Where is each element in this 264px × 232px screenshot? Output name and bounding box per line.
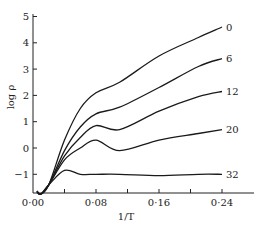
axes: −10123450·000·080·160·241/Tlog ρ <box>5 11 254 222</box>
curve-0 <box>37 27 222 194</box>
x-tick-label: 0·08 <box>85 197 107 208</box>
y-tick-label: 2 <box>23 90 29 101</box>
y-tick-label: 4 <box>23 37 29 48</box>
y-tick-label: 5 <box>23 11 29 22</box>
y-tick-label: 1 <box>23 116 29 127</box>
y-tick-label: 0 <box>23 143 29 154</box>
chart: −10123450·000·080·160·241/Tlog ρ 0612203… <box>0 0 264 232</box>
x-tick-label: 0·24 <box>211 197 233 208</box>
curves <box>37 27 222 194</box>
x-tick-label: 0·00 <box>22 197 44 208</box>
labels: 06122032 <box>226 22 239 180</box>
curve-label-20: 20 <box>226 124 239 135</box>
y-tick-label: −1 <box>14 169 29 180</box>
curve-label-32: 32 <box>226 169 239 180</box>
y-axis-label: log ρ <box>5 85 16 110</box>
x-tick-label: 0·16 <box>148 197 170 208</box>
curve-12 <box>37 92 222 195</box>
y-tick-label: 3 <box>23 64 29 75</box>
curve-label-6: 6 <box>226 53 232 64</box>
curve-label-0: 0 <box>226 22 232 33</box>
x-axis-label: 1/T <box>118 211 135 222</box>
curve-label-12: 12 <box>226 86 239 97</box>
